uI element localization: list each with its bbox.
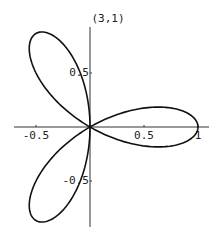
rose-curve-plot: (3,1) -0.50.510.5-0.5 [0,0,219,239]
x-tick-label: 0.5 [134,129,154,142]
chart-title: (3,1) [91,12,124,25]
x-tick-label: -0.5 [23,129,50,142]
y-tick-label: -0.5 [63,174,90,187]
axes [14,27,209,227]
